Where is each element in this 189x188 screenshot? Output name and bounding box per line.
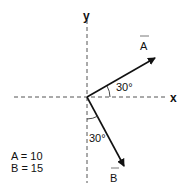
x-axis-label: x: [170, 91, 177, 105]
vector-b-label: B: [110, 172, 117, 184]
angle-arc-b: [87, 116, 98, 119]
angle-label-a: 30°: [116, 81, 133, 93]
vector-a-label: A: [140, 40, 148, 52]
vector-diagram: y x A 30° B 30° A = 10 B = 15: [0, 0, 189, 188]
angle-arc-a: [107, 86, 110, 97]
y-axis-label: y: [83, 9, 90, 23]
angle-label-b: 30°: [89, 132, 106, 144]
magnitude-b: B = 15: [11, 162, 43, 174]
magnitude-a: A = 10: [11, 150, 43, 162]
